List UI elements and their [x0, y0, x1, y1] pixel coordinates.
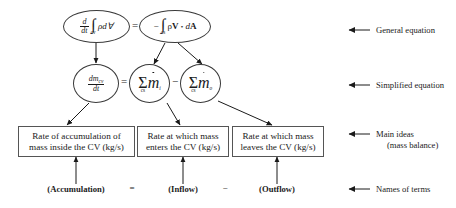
inflow-sum-expr: Σ cs mi — [138, 74, 160, 93]
mdot-out-subscript: o — [210, 85, 213, 91]
mdot-in-subscript: i — [159, 85, 161, 91]
annotation-main-ideas-sublabel: (mass balance) — [376, 140, 438, 151]
annotation-names-of-terms: Names of terms — [376, 184, 430, 195]
term-inflow: (Inflow) — [153, 184, 213, 194]
term-accumulation: (Accumulation) — [26, 184, 126, 194]
box3-text: Rate at which mass leaves the CV (kg/s) — [240, 131, 315, 153]
simplified-equation-lhs-circle[interactable]: dmcv dt — [73, 64, 119, 103]
box1-text: Rate of accumulation of mass inside the … — [29, 131, 124, 153]
box3-line1: Rate at which mass — [240, 131, 315, 142]
dot-product-icon: • — [181, 23, 183, 31]
box3-line2: leaves the CV (kg/s) — [240, 142, 315, 153]
main-idea-box-inflow[interactable]: Rate at which mass enters the CV (kg/s) — [137, 126, 229, 157]
mdot-in: m — [148, 74, 160, 92]
rhs-velocity-vector: V — [172, 21, 179, 31]
general-equation-lhs-expr: d dt ∫ cv ρd∀ — [80, 18, 112, 35]
general-equation-lhs-ellipse[interactable]: d dt ∫ cv ρd∀ — [63, 10, 130, 43]
row4-equals-operator: = — [126, 183, 138, 193]
annotation-simplified-equation-label: Simplified equation — [376, 80, 444, 90]
cv-subscript: cv — [98, 78, 103, 84]
rhs-minus-sign: − — [154, 21, 159, 31]
box2-text: Rate at which mass enters the CV (kg/s) — [146, 131, 220, 153]
box2-line2: enters the CV (kg/s) — [146, 142, 220, 153]
outflow-sum-expr: Σ cs mo — [189, 74, 213, 93]
row2-minus-operator: − — [170, 75, 180, 87]
simplified-lhs-expr: dmcv dt — [88, 74, 105, 94]
integral-icon: ∫ cv — [91, 18, 96, 35]
annotation-names-of-terms-label: Names of terms — [376, 184, 430, 194]
annotation-general-equation-label: General equation — [376, 25, 435, 35]
arrow-outflow-to-box3 — [218, 101, 272, 125]
main-idea-box-outflow[interactable]: Rate at which mass leaves the CV (kg/s) — [232, 126, 324, 157]
diagram-canvas: d dt ∫ cv ρd∀ = − ∫ cs ρV • dA dmcv — [0, 0, 456, 208]
arrow-inflow-to-box2 — [167, 103, 180, 125]
arrow-simplified-to-box1 — [67, 103, 89, 125]
box1-line2: mass inside the CV (kg/s) — [29, 142, 124, 153]
lhs-integrand: ρd∀ — [98, 21, 113, 31]
general-equation-rhs-ellipse[interactable]: − ∫ cs ρV • dA — [139, 10, 211, 43]
outflow-sum-circle[interactable]: Σ cs mo — [180, 64, 221, 103]
annotation-simplified-equation: Simplified equation — [376, 80, 444, 91]
row2-equals-operator: = — [119, 75, 129, 87]
lhs-frac-denominator: dt — [80, 27, 88, 35]
rhs-dA-A: A — [190, 21, 197, 31]
integral-icon: ∫ cs — [161, 18, 165, 35]
main-idea-box-accumulation[interactable]: Rate of accumulation of mass inside the … — [18, 126, 135, 157]
dt-denominator: dt — [88, 85, 105, 93]
inflow-sum-circle[interactable]: Σ cs mi — [129, 64, 170, 103]
annotation-main-ideas-label: Main ideas — [376, 129, 414, 139]
annotation-main-ideas: Main ideas (mass balance) — [376, 129, 438, 150]
integral-limit-cv: cv — [91, 30, 96, 35]
integral-limit-cs: cs — [161, 30, 165, 35]
box1-line1: Rate of accumulation of — [29, 131, 124, 142]
arrow-general-to-outflow — [178, 43, 202, 64]
sigma-icon: Σ cs — [189, 76, 198, 93]
general-equation-rhs-expr: − ∫ cs ρV • dA — [154, 18, 197, 35]
annotation-general-equation: General equation — [376, 25, 435, 36]
row4-minus-operator: − — [219, 183, 231, 193]
term-outflow: (Outflow) — [245, 184, 309, 194]
arrow-general-to-inflow — [154, 43, 165, 64]
box2-line1: Rate at which mass — [146, 131, 220, 142]
sigma-icon: Σ cs — [138, 76, 147, 93]
mdot-out: m — [198, 74, 210, 92]
